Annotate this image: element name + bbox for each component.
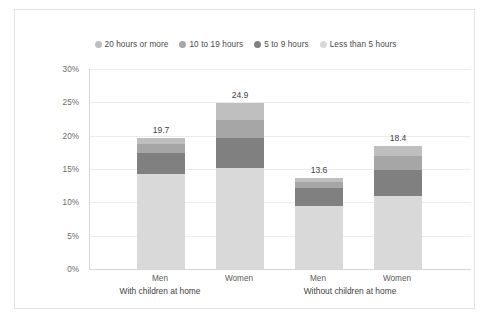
bar-segment[interactable] bbox=[295, 206, 343, 269]
bar-segment[interactable] bbox=[137, 174, 185, 269]
bar-column[interactable] bbox=[137, 138, 185, 269]
x-tick-label-men-with-children: Men bbox=[120, 274, 200, 283]
bar-segment[interactable] bbox=[374, 170, 422, 197]
bar-segment[interactable] bbox=[216, 103, 264, 120]
plot-area: 0%5%10%15%20%25%30%19.724.913.618.4 bbox=[89, 69, 471, 270]
bar-segment[interactable] bbox=[374, 146, 422, 156]
y-tick-label: 0% bbox=[67, 265, 79, 274]
y-tick-label: 25% bbox=[63, 98, 79, 107]
bar-value-label: 24.9 bbox=[210, 90, 270, 100]
bar-segment[interactable] bbox=[295, 188, 343, 206]
bar-value-label: 13.6 bbox=[289, 165, 349, 175]
y-tick-label: 15% bbox=[63, 165, 79, 174]
bar-column[interactable] bbox=[295, 178, 343, 269]
y-tick-label: 5% bbox=[67, 231, 79, 240]
bar-column[interactable] bbox=[374, 146, 422, 269]
bar-column[interactable] bbox=[216, 103, 264, 269]
bar-value-label: 18.4 bbox=[368, 133, 428, 143]
bar-segment[interactable] bbox=[216, 168, 264, 269]
chart-frame: 20 hours or more 10 to 19 hours 5 to 9 h… bbox=[14, 9, 475, 309]
x-tick-label-women-with-children: Women bbox=[199, 274, 279, 283]
bar-segment[interactable] bbox=[374, 196, 422, 269]
gridline bbox=[90, 69, 471, 70]
plot-wrapper: 0%5%10%15%20%25%30%19.724.913.618.4 Men … bbox=[15, 10, 476, 310]
y-tick-label: 30% bbox=[63, 65, 79, 74]
bar-segment[interactable] bbox=[374, 156, 422, 169]
gridline bbox=[90, 102, 471, 103]
x-tick-label-women-without-children: Women bbox=[357, 274, 437, 283]
y-tick-label: 20% bbox=[63, 131, 79, 140]
bar-segment[interactable] bbox=[137, 144, 185, 153]
bar-segment[interactable] bbox=[216, 120, 264, 138]
bar-segment[interactable] bbox=[216, 138, 264, 169]
x-group-label-with-children: With children at home bbox=[65, 286, 255, 296]
bar-segment[interactable] bbox=[137, 153, 185, 174]
bar-value-label: 19.7 bbox=[131, 125, 191, 135]
x-tick-label-men-without-children: Men bbox=[278, 274, 358, 283]
x-group-label-without-children: Without children at home bbox=[255, 286, 445, 296]
y-tick-label: 10% bbox=[63, 198, 79, 207]
